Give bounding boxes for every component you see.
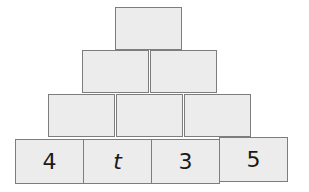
pyramid-cell-r2-c2 (184, 94, 251, 137)
pyramid-cell-r1-c1 (150, 50, 217, 93)
pyramid-cell-r1-c0 (82, 50, 149, 93)
pyramid-cell-r2-c0 (48, 94, 115, 137)
pyramid-cell-r0-c0 (115, 7, 182, 50)
pyramid-cell-r3-c1: t (83, 139, 152, 184)
pyramid-cell-r3-c3: 5 (219, 137, 288, 182)
pyramid-cell-r2-c1 (116, 94, 183, 137)
pyramid-cell-r3-c0: 4 (15, 139, 84, 184)
pyramid-cell-r3-c2: 3 (151, 139, 220, 184)
